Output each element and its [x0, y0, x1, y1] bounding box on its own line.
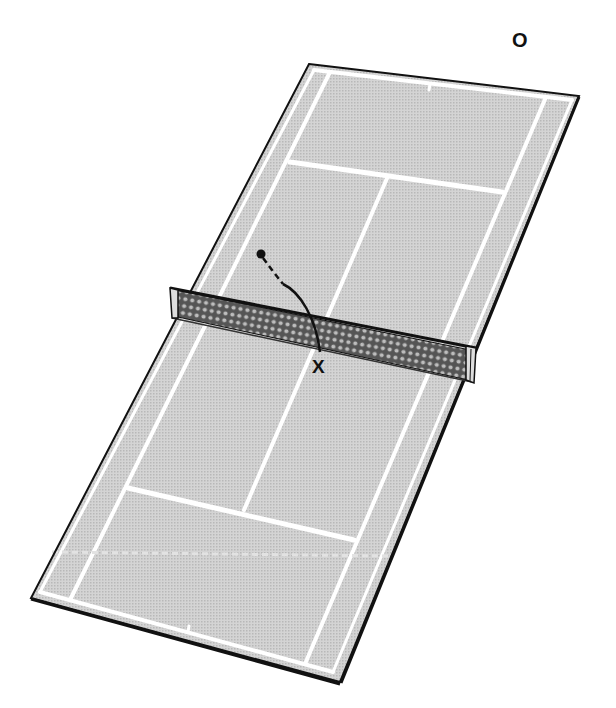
- far-center-mark: [429, 84, 430, 90]
- player-o-label: O: [512, 30, 528, 50]
- near-center-mark: [188, 626, 189, 632]
- ball-icon: [257, 250, 266, 259]
- tennis-court-diagram: [0, 0, 616, 708]
- player-x-label: X: [312, 357, 325, 376]
- net-post-left: [170, 288, 178, 318]
